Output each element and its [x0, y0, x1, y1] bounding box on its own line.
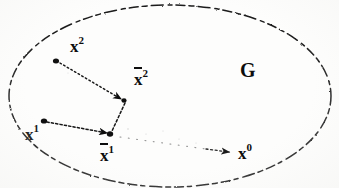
region-boundary-ellipse [9, 5, 331, 187]
point-label-xbar1-superscript: 1 [109, 143, 115, 155]
point-label-x2-superscript: 2 [79, 34, 85, 46]
point-label-xbar1-base: x [100, 147, 109, 164]
point-label-x0-superscript: 0 [247, 141, 253, 153]
figure-canvas: x2 x2 x1 x1 x0 G [0, 0, 339, 188]
point-label-x1-base: x [25, 126, 34, 143]
segment-xbar2-to-xbar1 [112, 103, 125, 131]
point-label-xbar1: x1 [100, 146, 114, 164]
point-dot-xbar1 [107, 131, 113, 136]
point-label-x1-superscript: 1 [34, 122, 40, 134]
point-label-x2: x2 [70, 37, 84, 55]
region-label-G: G [240, 60, 256, 80]
point-label-xbar2-base: x [134, 71, 143, 88]
arrow-x1-to-xbar1 [47, 122, 107, 133]
arrow-x2-to-xbar2 [60, 63, 121, 99]
point-label-x0-base: x [238, 145, 247, 162]
point-dot-xbar2 [121, 98, 126, 102]
scan-speckles [67, 72, 196, 147]
point-label-x2-base: x [70, 38, 79, 55]
point-dot-x2 [53, 59, 59, 64]
point-dot-x1 [41, 118, 47, 123]
point-label-x0: x0 [238, 144, 252, 162]
point-label-x1: x1 [25, 125, 39, 143]
diagram-svg [0, 0, 339, 188]
arrow-xbar1-to-x0 [120, 137, 229, 152]
point-label-xbar2: x2 [134, 70, 148, 88]
point-label-xbar2-superscript: 2 [143, 67, 149, 79]
